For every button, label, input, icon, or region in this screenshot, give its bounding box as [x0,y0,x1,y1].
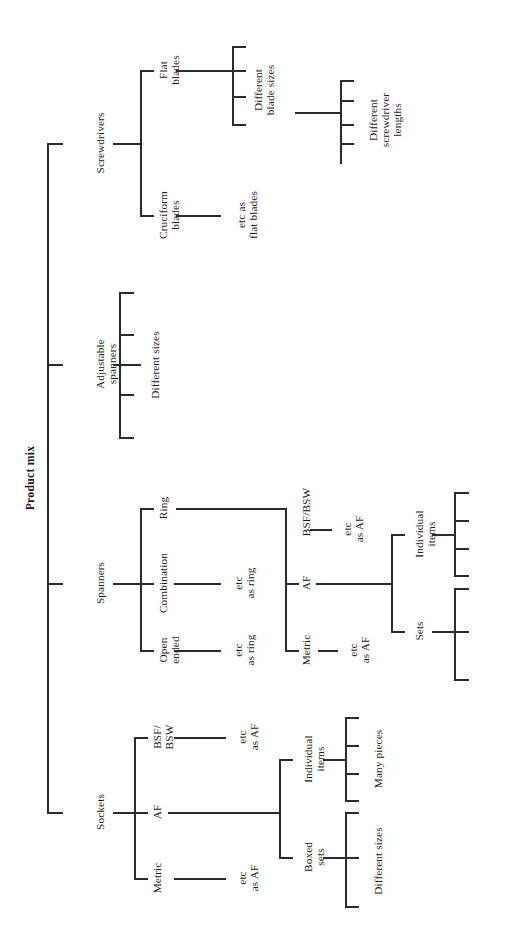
spanners-children-spine [140,508,142,651]
spanners-ring-stub-metric [285,650,299,652]
spanners-sets-prong-2 [454,631,469,633]
sockets-boxed-sizes-spine [345,812,347,907]
sockets-many-pieces-spine [345,717,347,801]
spanners-individual-prong-4 [454,575,469,577]
screwdrivers-flat-to-sizes-line [176,70,233,72]
spanners-sets-bracket-spine [454,588,456,680]
root-stub-screwdrivers [47,143,63,145]
sockets-many-pieces-prong-3 [345,773,359,775]
adjustable-prong-4 [119,394,134,396]
sockets-boxed-sizes-prong-1 [345,812,359,814]
root-stub-spanners [47,583,63,585]
node-sockets-metric: Metric [152,863,164,894]
screwdrivers-blade-sizes-spine [232,46,234,125]
spanners-metric-to-etc-line [318,650,338,652]
screwdrivers-children-spine [140,70,142,217]
node-spanners-af: AF [301,576,313,591]
node-spanners-bsf-etc: etc as AF [342,516,366,543]
node-spanners-ring: Ring [158,497,170,519]
screwdrivers-cruciform-to-etc-line [176,215,221,217]
screwdrivers-lengths-prong-1 [340,80,354,82]
node-screwdrivers-lengths: Different screwdriver lengths [368,93,404,147]
screwdrivers-connector [113,143,141,145]
spanners-connector [113,583,141,585]
spanners-combination-to-etc-line [174,583,221,585]
screwdrivers-blade-sizes-prong-1 [232,46,246,48]
sockets-bsf-to-etc-line [174,737,226,739]
node-spanners-combination: Combination [158,553,170,613]
sockets-many-pieces-prong-2 [345,745,359,747]
screwdrivers-lengths-prong-3 [340,124,354,126]
spanners-ring-stub-af [285,583,299,585]
node-spanners-metric: Metric [301,635,313,666]
sockets-split-stub-boxed [279,857,293,859]
sockets-af-split-spine [279,759,281,858]
node-screwdrivers: Screwdrivers [95,113,107,174]
sockets-boxed-sizes-prong-3 [345,906,359,908]
sockets-boxed-sizes-prong-2 [345,857,359,859]
node-spanners-metric-etc: etc as AF [348,637,372,664]
sockets-metric-to-etc-line [174,878,226,880]
sockets-children-spine [134,737,136,879]
node-sockets-af: AF [152,805,164,820]
screwdrivers-blade-sizes-prong-3 [232,96,246,98]
node-spanners-open-etc: etc as ring [233,634,257,665]
screwdrivers-stub-cruciform [140,215,154,217]
spanners-individual-prong-1 [454,492,469,494]
sockets-boxed-connector [323,857,346,859]
node-screwdrivers-cruciform-etc: etc as flat blades [236,191,260,239]
spanners-sets-prong-1 [454,588,469,590]
spanners-individual-prong-2 [454,520,469,522]
spanners-child-stub-combination [140,583,154,585]
spanners-child-stub-ring [140,508,154,510]
page-title: Product mix [24,446,37,511]
sockets-split-stub-individual [279,759,293,761]
screwdrivers-lengths-connector [295,112,342,114]
spanners-individual-prong-3 [454,548,469,550]
node-screwdrivers-blade-sizes: Different blade sizes [253,65,277,115]
root-spine-line [47,143,49,814]
spanners-af-to-split-line [316,583,392,585]
sockets-many-pieces-prong-1 [345,717,359,719]
adjustable-prong-3 [119,364,134,366]
screwdrivers-stub-flat [140,70,154,72]
spanners-ring-children-spine [285,508,287,651]
sockets-child-stub-af [134,812,148,814]
product-mix-tree-diagram: Product mix Sockets BSF/ BSW AF Metric e… [0,0,505,926]
spanners-sets-prong-3 [454,679,469,681]
sockets-individual-connector [323,759,346,761]
node-spanners-sets: Sets [414,621,426,640]
node-sockets-different-sizes: Different sizes [373,827,385,894]
root-stub-adjustable-spanners [47,364,63,366]
node-sockets-many-pieces: Many pieces [373,730,385,789]
sockets-connector [113,812,135,814]
screwdrivers-blade-sizes-prong-2 [232,70,246,72]
sockets-child-stub-metric [134,878,148,880]
screwdrivers-blade-sizes-prong-4 [232,124,246,126]
sockets-many-pieces-prong-4 [345,800,359,802]
spanners-split-stub-sets [391,631,405,633]
node-spanners: Spanners [95,562,107,604]
adjustable-prong-1 [119,292,134,294]
spanners-split-stub-individual [391,534,405,536]
spanners-open-to-etc-line [174,650,221,652]
spanners-individual-connector [432,534,455,536]
screwdrivers-lengths-prong-2 [340,100,354,102]
spanners-child-stub-open [140,650,154,652]
node-sockets: Sockets [95,794,107,830]
node-adjustable-different-sizes: Different sizes [150,331,162,398]
node-sockets-bsf-bsw: BSF/ BSW [152,725,176,750]
node-spanners-comb-etc: etc as ring [233,567,257,598]
adjustable-prong-5 [119,437,134,439]
spanners-individual-bracket-spine [454,492,456,576]
adjustable-prong-2 [119,334,134,336]
node-sockets-bsf-etc: etc as AF [237,724,261,751]
sockets-af-to-split-line [168,812,280,814]
spanners-sets-connector [432,631,455,633]
node-sockets-metric-etc: etc as AF [237,865,261,892]
screwdrivers-lengths-prong-4 [340,143,354,145]
spanners-ring-to-split-line [176,508,286,510]
root-stub-sockets [47,812,63,814]
sockets-child-stub-bsf [134,737,148,739]
spanners-bsf-to-etc-line [310,529,332,531]
